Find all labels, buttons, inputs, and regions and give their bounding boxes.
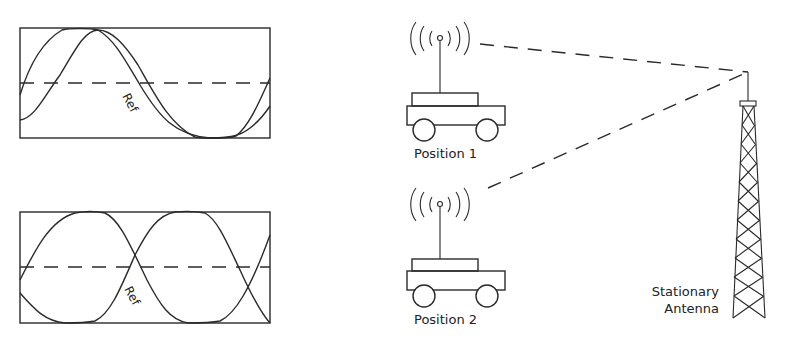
vehicle-cab: [412, 93, 478, 106]
stationary-antenna-tower: Stationary Antenna: [652, 72, 765, 318]
signal-path-position-2: [488, 72, 748, 188]
vehicle-position-2: Position 2: [407, 188, 505, 327]
diagram-canvas: Ref Ref Position 1: [0, 0, 785, 341]
waveform-panel-top: Ref: [20, 28, 270, 138]
vehicle-position-1: Position 1: [407, 22, 505, 161]
ref-label-top: Ref: [119, 91, 141, 115]
tower-platform: [740, 101, 756, 106]
antenna-label-line2: Antenna: [664, 301, 719, 316]
wheel-icon: [476, 119, 498, 141]
vehicle-cab: [412, 259, 478, 271]
position-2-label: Position 2: [414, 312, 477, 327]
ref-label-bottom: Ref: [121, 284, 143, 308]
position-1-label: Position 1: [414, 146, 477, 161]
waveform-panel-bottom: Ref: [20, 211, 270, 323]
waveform-curve-ref: [20, 30, 270, 138]
wheel-icon: [413, 285, 435, 307]
wheel-icon: [476, 285, 498, 307]
wheel-icon: [413, 119, 435, 141]
signal-path-position-1: [480, 44, 748, 72]
antenna-label-line1: Stationary: [652, 284, 720, 299]
tower-lattice: [733, 106, 765, 318]
